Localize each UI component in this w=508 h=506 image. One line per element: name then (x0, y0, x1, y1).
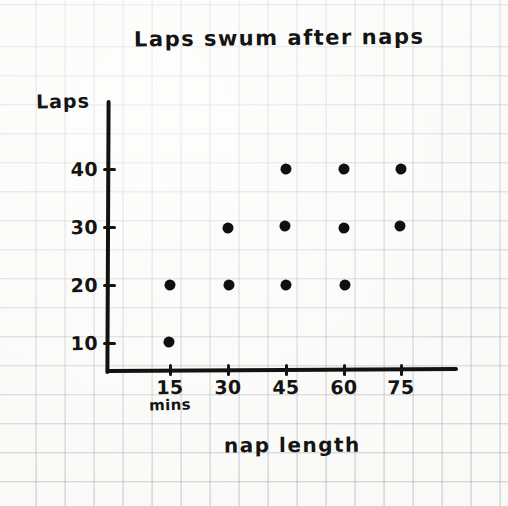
x-axis-unit-label: mins (149, 395, 191, 414)
y-axis-tick-30 (103, 226, 116, 229)
y-axis-tick-label-30: 30 (70, 216, 98, 238)
x-axis-line (106, 367, 458, 373)
data-point (280, 221, 291, 232)
y-axis-tick-10 (103, 342, 116, 345)
data-point (338, 222, 349, 233)
x-axis-tick-label-75: 75 (387, 376, 415, 398)
x-axis-tick-45 (285, 364, 288, 376)
x-axis-tick-label-30: 30 (214, 376, 242, 398)
data-point (339, 279, 350, 290)
data-point (281, 164, 292, 175)
data-point (222, 222, 233, 233)
data-point (396, 164, 407, 175)
y-axis-tick-20 (103, 284, 116, 287)
x-axis-tick-60 (343, 364, 346, 376)
y-axis-tick-40 (103, 168, 116, 171)
y-axis-line (105, 100, 110, 374)
data-point (164, 337, 175, 348)
data-point (165, 280, 176, 291)
y-axis-label: Laps (36, 89, 90, 112)
y-axis-tick-label-40: 40 (70, 158, 98, 180)
x-axis-tick-label-45: 45 (272, 376, 300, 398)
x-axis-tick-15 (169, 364, 172, 376)
y-axis-tick-label-10: 10 (70, 332, 98, 354)
scatter-plot-screenshot: Laps swum after naps Laps 10203040153045… (0, 0, 508, 506)
graph-paper-grid (0, 0, 508, 506)
x-axis-tick-label-60: 60 (330, 376, 358, 398)
data-point (395, 221, 406, 232)
y-axis-tick-label-20: 20 (70, 274, 98, 296)
x-axis-tick-30 (227, 364, 230, 376)
x-axis-tick-75 (400, 364, 403, 376)
data-point (281, 280, 292, 291)
paper-texture-overlay (0, 0, 508, 506)
chart-title: Laps swum after naps (134, 24, 425, 51)
data-point (339, 164, 350, 175)
x-axis-title: nap length (224, 433, 361, 458)
data-point (223, 279, 234, 290)
